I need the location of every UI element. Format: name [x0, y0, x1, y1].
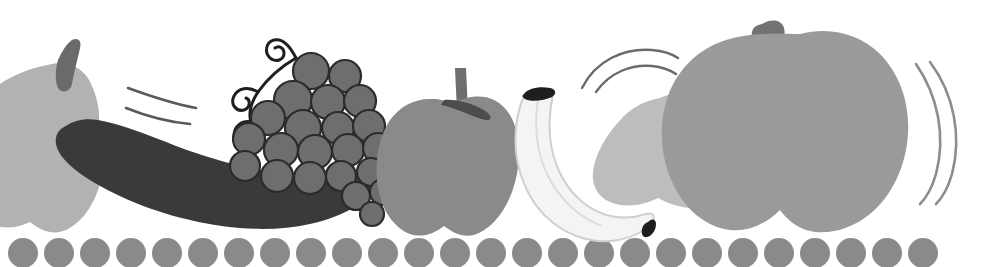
bottom-dot	[296, 238, 326, 267]
bottom-dot	[620, 238, 650, 267]
bottom-dot	[692, 238, 722, 267]
grape-berry	[230, 151, 260, 181]
bottom-dot	[656, 238, 686, 267]
bottom-dot	[548, 238, 578, 267]
bottom-dot	[800, 238, 830, 267]
bottom-dot	[476, 238, 506, 267]
grape-berry	[294, 162, 326, 194]
bottom-dot	[908, 238, 938, 267]
apple-center-body	[377, 97, 520, 236]
apple-right-body	[662, 31, 909, 232]
grape-berry	[233, 123, 265, 155]
bottom-dot	[8, 238, 38, 267]
bottom-dot	[80, 238, 110, 267]
grape-berry	[261, 160, 293, 192]
bottom-dot	[368, 238, 398, 267]
illustration-canvas: Fruit row illustration	[0, 0, 1003, 267]
bottom-dot	[152, 238, 182, 267]
bottom-dot	[728, 238, 758, 267]
bottom-dot	[872, 238, 902, 267]
bottom-dot	[440, 238, 470, 267]
bottom-dot	[404, 238, 434, 267]
fruit-illustration	[0, 0, 1003, 267]
bottom-dot	[224, 238, 254, 267]
bottom-dot	[116, 238, 146, 267]
bottom-dot	[836, 238, 866, 267]
bottom-dot	[764, 238, 794, 267]
bottom-dot	[188, 238, 218, 267]
bottom-dot	[260, 238, 290, 267]
bottom-dot	[332, 238, 362, 267]
grape-berry	[360, 202, 384, 226]
bottom-dot	[44, 238, 74, 267]
bottom-dot	[584, 238, 614, 267]
bottom-dot	[512, 238, 542, 267]
